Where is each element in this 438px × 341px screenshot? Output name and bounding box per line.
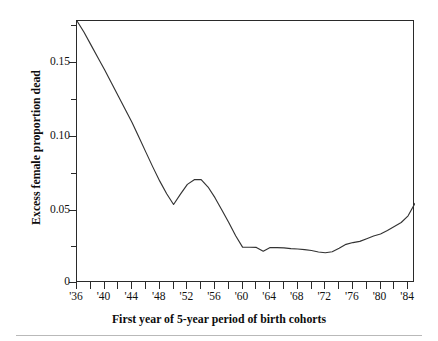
x-tick-label: '48 [152,290,166,302]
x-tick-minor [338,282,339,289]
x-tick-minor [366,282,367,289]
x-tick-minor [255,282,256,289]
x-tick-major [297,282,298,289]
plot-area [76,20,414,282]
x-tick-label: '36 [69,290,83,302]
x-tick-minor [145,282,146,289]
x-tick-label: '80 [373,290,387,302]
x-tick-major [159,282,160,289]
x-tick-minor [283,282,284,289]
x-tick-label: '68 [290,290,304,302]
x-tick-minor [90,282,91,289]
x-axis-title: First year of 5-year period of birth coh… [0,312,438,327]
footer-divider [16,335,422,336]
x-tick-label: '64 [262,290,276,302]
x-tick-major [324,282,325,289]
x-tick-major [380,282,381,289]
x-tick-label: '76 [345,290,359,302]
x-tick-label: '40 [97,290,111,302]
x-tick-major [76,282,77,289]
x-tick-major [242,282,243,289]
x-tick-label: '44 [124,290,138,302]
data-series-line [77,21,415,283]
x-tick-minor [228,282,229,289]
x-tick-major [214,282,215,289]
chart-figure: 0.15 0.10 0.05 0 '36'40'44'48'52'56'60'6… [0,0,438,341]
x-tick-label: '84 [400,290,414,302]
x-tick-label: '56 [207,290,221,302]
y-tick-label: 0 [8,276,70,288]
x-tick-minor [173,282,174,289]
x-tick-major [131,282,132,289]
x-tick-minor [200,282,201,289]
x-tick-minor [393,282,394,289]
x-tick-label: '52 [180,290,194,302]
x-tick-major [352,282,353,289]
x-tick-minor [117,282,118,289]
x-tick-major [269,282,270,289]
x-tick-major [104,282,105,289]
x-tick-major [407,282,408,289]
x-tick-label: '72 [318,290,332,302]
x-tick-minor [311,282,312,289]
y-axis-title: Excess female proportion dead [29,28,44,268]
x-tick-label: '60 [235,290,249,302]
x-tick-major [186,282,187,289]
